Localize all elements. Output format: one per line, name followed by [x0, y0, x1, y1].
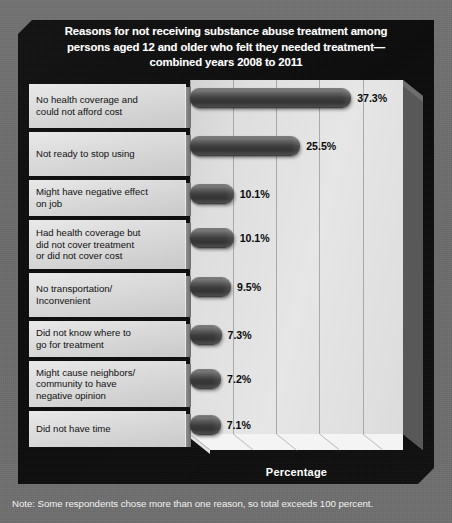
bar[interactable] [190, 88, 351, 108]
bar[interactable] [190, 228, 234, 248]
category-label-column: No health coverage andcould not afford c… [29, 80, 191, 434]
chart-title-line-1: Reasons for not receiving substance abus… [18, 24, 434, 40]
bar-chart: No health coverage andcould not afford c… [29, 80, 423, 458]
gridline-40 [363, 80, 364, 434]
category-label-cell: Had health coverage butdid not cover tre… [29, 220, 186, 269]
bar-value-label: 7.3% [228, 329, 252, 341]
bar-value-label: 25.5% [306, 140, 336, 152]
category-label-text: Might have negative effecton job [36, 186, 148, 209]
bar[interactable] [190, 136, 300, 156]
gridline-20 [276, 80, 277, 434]
category-label-text: Might cause neighbors/community to haven… [36, 367, 135, 402]
category-label-cell: Might have negative effecton job [29, 180, 186, 216]
footnote: Note: Some respondents chose more than o… [12, 498, 442, 510]
bar-value-label: 10.1% [240, 232, 270, 244]
category-label-cell: Did not know where togo for treatment [29, 321, 186, 357]
category-label-text: Had health coverage butdid not cover tre… [36, 227, 141, 262]
bar[interactable] [190, 277, 231, 297]
bar-value-label: 37.3% [357, 92, 387, 104]
category-label-text: Did not know where togo for treatment [36, 327, 131, 350]
category-label-cell: Did not have time [29, 411, 186, 447]
x-tick-label: 0% [204, 452, 218, 463]
category-label-cell: Might cause neighbors/community to haven… [29, 361, 186, 407]
bar-value-label: 7.2% [227, 373, 251, 385]
bar-value-label: 10.1% [240, 188, 270, 200]
x-axis-title: Percentage [190, 466, 403, 478]
x-tick-label: 10% [245, 452, 264, 463]
bar[interactable] [190, 369, 221, 389]
category-label-text: No transportation/Inconvenient [36, 283, 112, 306]
bar-value-label: 7.1% [227, 419, 251, 431]
bar-value-label: 9.5% [237, 281, 261, 293]
chart-title-line-3: combined years 2008 to 2011 [18, 55, 434, 71]
category-label-cell: No health coverage andcould not afford c… [29, 84, 186, 128]
bar[interactable] [190, 184, 234, 204]
category-label-text: Not ready to stop using [36, 148, 135, 160]
chart-title-line-2: persons aged 12 and older who felt they … [18, 40, 434, 56]
category-label-cell: No transportation/Inconvenient [29, 273, 186, 317]
category-label-text: No health coverage andcould not afford c… [36, 94, 138, 117]
bar[interactable] [190, 415, 221, 435]
bar[interactable] [190, 325, 222, 345]
gridline-30 [319, 80, 320, 434]
category-label-text: Did not have time [36, 423, 111, 435]
x-tick-label: 40% [374, 452, 393, 463]
x-tick-label: 20% [288, 452, 307, 463]
chart-title: Reasons for not receiving substance abus… [18, 24, 434, 71]
x-tick-label: 30% [331, 452, 350, 463]
category-label-cell: Not ready to stop using [29, 132, 186, 176]
